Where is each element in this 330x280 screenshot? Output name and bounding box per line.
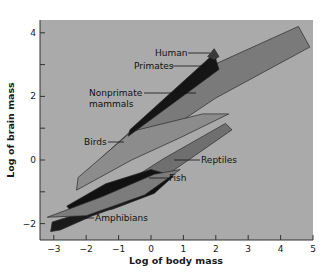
x-tick-label: −3 (47, 244, 60, 254)
label-human: Human (155, 48, 187, 58)
label-nonprimate-line2: mammals (89, 99, 134, 109)
x-tick-label: 5 (310, 244, 316, 254)
label-reptiles: Reptiles (201, 155, 237, 165)
x-tick-label: 2 (213, 244, 219, 254)
label-birds: Birds (84, 137, 107, 147)
label-nonprimate-line1: Nonprimate (89, 88, 143, 98)
y-axis-title: Log of brain mass (5, 82, 16, 178)
y-tick-label: 2 (30, 91, 36, 101)
x-tick-label: −1 (112, 244, 125, 254)
x-tick-label: 4 (278, 244, 284, 254)
x-axis-title: Log of body mass (129, 255, 223, 266)
x-tick-label: 1 (181, 244, 187, 254)
label-primates: Primates (134, 61, 174, 71)
x-tick-label: 0 (148, 244, 154, 254)
x-tick-label: 3 (245, 244, 251, 254)
y-tick-label: 0 (30, 155, 36, 165)
label-amphibians: Amphibians (95, 213, 148, 223)
y-tick-label: 4 (30, 28, 36, 38)
x-tick-label: −2 (80, 244, 93, 254)
label-fish: Fish (169, 173, 186, 183)
brain-body-mass-chart: −3−2−1012345 −2024 Human Primates Nonpri… (0, 0, 330, 280)
y-tick-label: −2 (23, 219, 36, 229)
